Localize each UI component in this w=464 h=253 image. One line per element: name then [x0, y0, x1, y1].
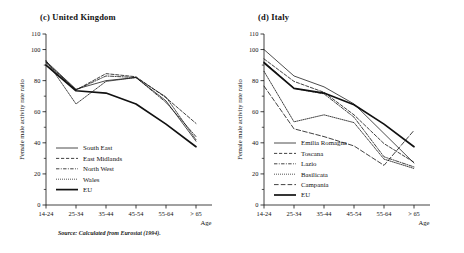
- y-tick-label: 20: [34, 170, 40, 177]
- x-tick-label: > 65: [408, 210, 420, 217]
- y-tick-label: 80: [252, 77, 258, 84]
- y-tick-label: 40: [252, 139, 258, 146]
- y-tick-label: 40: [34, 139, 40, 146]
- y-tick-label: 60: [252, 108, 258, 115]
- y-tick-label: 60: [34, 108, 40, 115]
- x-tick-label: 35-44: [317, 210, 333, 217]
- x-tick-label: 55-64: [159, 210, 175, 217]
- x-tick-label: > 65: [190, 210, 202, 217]
- figure-two-panel-line-charts: (c) United Kingdom 02040608010011014-242…: [0, 0, 464, 253]
- series-line-wales: [46, 60, 196, 139]
- legend-label-wales: Wales: [83, 176, 100, 183]
- legend-label-campania: Campania: [301, 181, 329, 188]
- x-axis-title: Age: [201, 219, 212, 226]
- legend-label-toscana: Toscana: [301, 150, 323, 157]
- y-tick-label: 100: [249, 46, 259, 53]
- y-tick-label: 110: [31, 30, 40, 37]
- y-tick-label: 80: [34, 77, 40, 84]
- x-tick-label: 35-44: [99, 210, 115, 217]
- x-tick-label: 25-34: [69, 210, 85, 217]
- legend-label-south-east: South East: [83, 144, 112, 151]
- legend-label-east-midlands: East Midlands: [83, 155, 122, 162]
- series-line-eu: [46, 65, 196, 147]
- legend-label-eu: EU: [301, 191, 310, 198]
- panel-united-kingdom: (c) United Kingdom 02040608010011014-242…: [0, 0, 232, 253]
- y-tick-label: 100: [31, 46, 41, 53]
- x-tick-label: 14-24: [257, 210, 273, 217]
- x-tick-label: 25-34: [287, 210, 303, 217]
- x-tick-label: 55-64: [377, 210, 393, 217]
- x-tick-label: 45-54: [347, 210, 363, 217]
- y-axis-title: Female male activity rate ratio: [236, 79, 243, 160]
- series-line-lazio: [264, 62, 414, 167]
- legend-label-emilia-romagna: Emilia Romagna: [301, 139, 347, 146]
- legend-label-basilicata: Basilicata: [301, 171, 328, 178]
- chart-united-kingdom: 02040608010011014-2425-3435-4445-5455-64…: [0, 0, 232, 253]
- x-tick-label: 14-24: [39, 210, 55, 217]
- legend-label-eu: EU: [83, 186, 92, 193]
- y-tick-label: 0: [37, 201, 40, 208]
- source-note: Source: Calculated from Eurostat (1994).: [58, 230, 161, 236]
- legend-label-north-west: North West: [83, 165, 114, 172]
- legend-label-lazio: Lazio: [301, 160, 317, 167]
- series-line-north-west: [46, 63, 196, 137]
- y-tick-label: 20: [252, 170, 258, 177]
- y-axis-title: Female male activity rate ratio: [18, 79, 25, 160]
- y-tick-label: 110: [249, 30, 258, 37]
- chart-italy: 02040608010011014-2425-3435-4445-5455-64…: [232, 0, 464, 253]
- series-line-basilicata: [264, 71, 414, 168]
- y-tick-label: 0: [255, 201, 258, 208]
- x-tick-label: 45-54: [129, 210, 145, 217]
- series-line-toscana: [264, 59, 414, 162]
- x-axis-title: Age: [419, 219, 430, 226]
- panel-italy: (d) Italy 02040608010011014-2425-3435-44…: [232, 0, 464, 253]
- series-line-east-midlands: [46, 62, 196, 123]
